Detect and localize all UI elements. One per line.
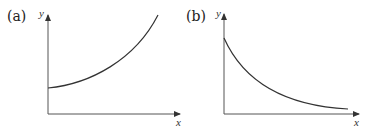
panel-a-graph (48, 15, 180, 114)
panel-a-label: (a) (7, 8, 26, 24)
graphs-svg (0, 0, 368, 130)
panel-a-y-label: y (39, 7, 44, 19)
panel-b-decay-curve (224, 38, 348, 109)
panel-a-growth-curve (48, 15, 158, 88)
panel-b-graph (224, 14, 359, 114)
panel-b-y-label: y (216, 7, 221, 19)
panel-b-label: (b) (186, 8, 206, 24)
figure: (a) y x (b) y x (0, 0, 368, 130)
panel-b-x-label: x (354, 116, 359, 128)
panel-a-x-label: x (176, 116, 181, 128)
